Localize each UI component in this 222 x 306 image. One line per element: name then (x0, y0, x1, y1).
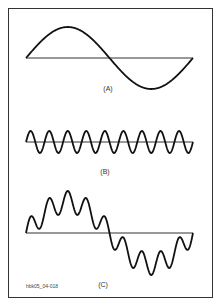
panel-label-b: (B) (95, 168, 115, 175)
waveform-a (26, 27, 193, 89)
panel-label-c: (C) (93, 281, 113, 288)
waveforms (0, 0, 222, 306)
waveform-b (26, 131, 193, 153)
panel-label-a: (A) (98, 85, 118, 92)
figure-id-label: hbk05_04-018 (26, 283, 58, 289)
waveform-c (26, 191, 193, 275)
